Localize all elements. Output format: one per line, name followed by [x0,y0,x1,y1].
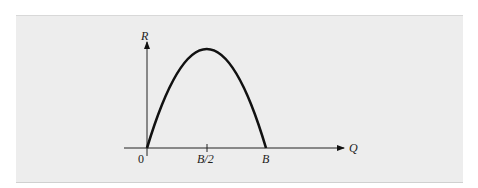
tick-label-b-half: B/2 [197,152,214,166]
y-axis-label: R [140,29,149,43]
x-axis-label: Q [349,141,358,155]
tick-label-b: B [262,152,270,166]
origin-label: 0 [138,152,144,166]
revenue-curve [147,49,266,148]
revenue-chart: R Q 0 B/2 B [0,0,478,188]
